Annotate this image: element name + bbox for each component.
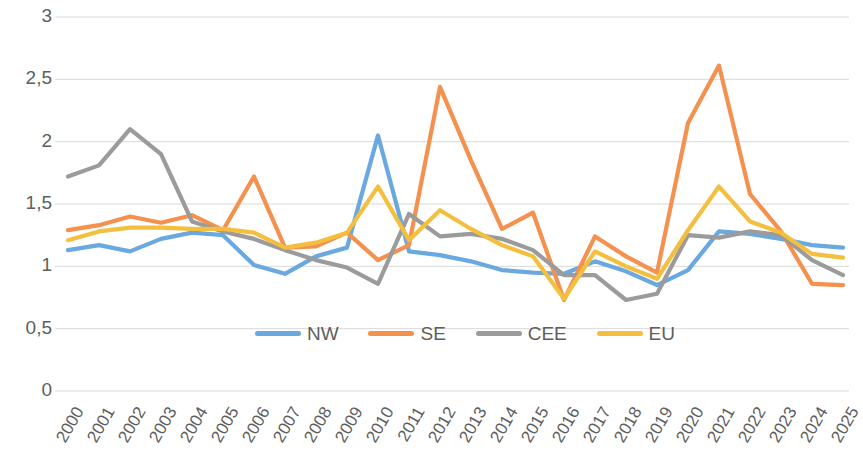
legend-label: CEE <box>528 324 567 343</box>
y-axis-tick-label: 1 <box>8 255 52 274</box>
y-axis-tick-label: 0 <box>8 380 52 399</box>
legend-label: NW <box>307 324 339 343</box>
legend-swatch-icon <box>368 331 414 336</box>
y-axis-tick-label: 0,5 <box>8 318 52 337</box>
y-axis-tick-label: 3 <box>8 6 52 25</box>
chart-legend: NWSECEEEU <box>255 320 675 346</box>
legend-swatch-icon <box>255 331 301 336</box>
legend-swatch-icon <box>597 331 643 336</box>
legend-item-se[interactable]: SE <box>368 324 445 343</box>
series-line-se <box>68 66 843 300</box>
legend-label: EU <box>649 324 675 343</box>
y-axis-tick-label: 2 <box>8 131 52 150</box>
legend-item-nw[interactable]: NW <box>255 324 339 343</box>
series-line-nw <box>68 135 843 285</box>
legend-swatch-icon <box>476 331 522 336</box>
series-line-cee <box>68 129 843 300</box>
legend-item-eu[interactable]: EU <box>597 324 675 343</box>
legend-item-cee[interactable]: CEE <box>476 324 567 343</box>
y-axis-tick-label: 2,5 <box>8 68 52 87</box>
y-axis-tick-label: 1,5 <box>8 193 52 212</box>
legend-label: SE <box>420 324 445 343</box>
